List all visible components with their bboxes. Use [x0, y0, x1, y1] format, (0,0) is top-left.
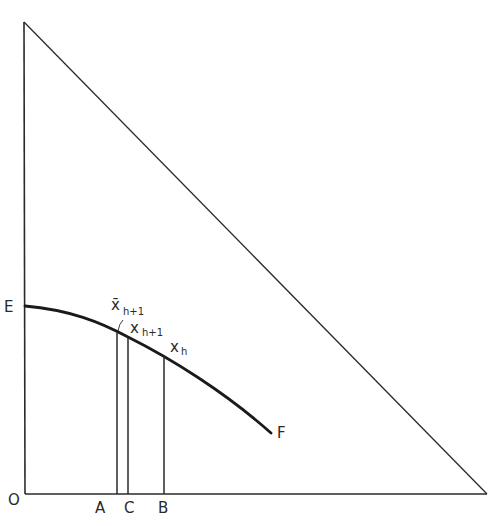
label-a: A — [95, 499, 106, 517]
label-c: C — [124, 499, 134, 517]
diagram-canvas: E F O A C B x̄ h+1 x h+1 x h — [0, 0, 498, 526]
label-e: E — [4, 298, 13, 316]
label-x-h1-sub: h+1 — [142, 327, 163, 338]
vertical-axis — [24, 22, 25, 494]
label-f: F — [277, 424, 286, 442]
curve-ef — [25, 306, 271, 433]
label-xbar-h1-sub: h+1 — [123, 306, 144, 317]
leader-line-xbar — [118, 320, 123, 331]
label-b: B — [158, 499, 168, 517]
label-o: O — [8, 491, 20, 509]
label-x-h1-base: x — [130, 319, 139, 337]
label-x-h-sub: h — [181, 346, 187, 357]
hypotenuse-line — [24, 22, 487, 494]
label-xbar-h1-base: x̄ — [111, 296, 120, 314]
label-x-h-base: x — [170, 338, 179, 356]
